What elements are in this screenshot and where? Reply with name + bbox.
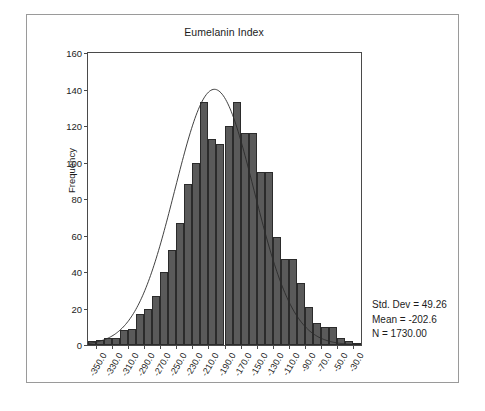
chart-title: Eumelanin Index [88, 26, 360, 38]
x-tick-mark [112, 345, 113, 349]
plot-area: Frequency 020406080100120140160 -350.0-3… [87, 52, 362, 346]
x-tick-mark [144, 345, 145, 349]
y-tick-label: 140 [66, 84, 82, 95]
x-tick-mark [257, 345, 258, 349]
sample-size-text: N = 1730.00 [372, 327, 447, 342]
y-tick-label: 80 [71, 194, 82, 205]
x-tick-mark [353, 345, 354, 349]
y-tick-label: 0 [77, 340, 82, 351]
y-tick-label: 160 [66, 48, 82, 59]
x-tick-mark [225, 345, 226, 349]
y-tick-label: 20 [71, 303, 82, 314]
statistics-box: Std. Dev = 49.26 Mean = -202.6 N = 1730.… [372, 298, 447, 342]
x-tick-mark [176, 345, 177, 349]
y-tick-mark [84, 345, 88, 346]
normal-distribution-curve [88, 53, 361, 345]
x-tick-mark [192, 345, 193, 349]
x-tick-mark [96, 345, 97, 349]
mean-text: Mean = -202.6 [372, 313, 447, 328]
std-dev-text: Std. Dev = 49.26 [372, 298, 447, 313]
x-tick-mark [241, 345, 242, 349]
x-tick-mark [273, 345, 274, 349]
x-tick-mark [160, 345, 161, 349]
y-tick-label: 60 [71, 230, 82, 241]
x-tick-mark [305, 345, 306, 349]
histogram-figure: Eumelanin Index Frequency 02040608010012… [0, 0, 485, 411]
x-tick-mark [321, 345, 322, 349]
x-tick-mark [208, 345, 209, 349]
y-tick-label: 40 [71, 267, 82, 278]
y-axis-title: Frequency [66, 148, 77, 193]
x-tick-mark [289, 345, 290, 349]
y-tick-label: 100 [66, 157, 82, 168]
y-tick-label: 120 [66, 121, 82, 132]
x-tick-mark [128, 345, 129, 349]
x-tick-mark [337, 345, 338, 349]
